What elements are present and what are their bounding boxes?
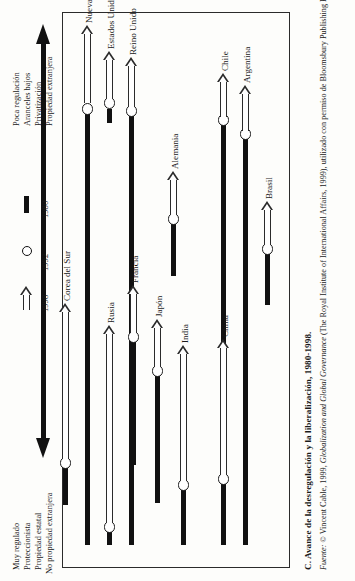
label-argentina: Argentina	[242, 47, 252, 83]
arrow-1998-china	[217, 339, 230, 475]
circle-1992-nueva-zelanda	[82, 103, 94, 115]
legend: 1980 1992 1998	[6, 196, 58, 326]
bar-1980-rusia	[107, 531, 112, 545]
source-book-title: Globalization and Global Governance	[319, 337, 328, 463]
arrow-1998-alemania	[167, 171, 180, 215]
caption-title-text: Avance de la desregulación y la liberali…	[303, 332, 313, 560]
pole-closed-line-2: Proteccionista	[23, 523, 33, 570]
arrow-1998-brasil	[261, 201, 274, 245]
arrow-1998-argentina	[239, 85, 252, 131]
bar-1980-india	[181, 489, 186, 545]
arrow-1998-francia	[127, 285, 140, 333]
axis-arrow-head-down	[36, 438, 50, 458]
label-nueva-zelanda-line1: Nueva Zelanda	[84, 0, 94, 23]
pole-closed-line-4: No propiedad extranjera	[45, 493, 55, 574]
label-brasil: Brasil	[264, 177, 274, 199]
label-japon: Japón	[154, 296, 164, 317]
pole-closed-line-1: Muy regulado	[12, 523, 22, 570]
label-reino-unido: Reino Unido	[128, 8, 138, 55]
arrow-1998-rusia	[103, 325, 116, 523]
legend-marker-bar-1980	[24, 196, 29, 213]
caption-source-block: Fuente: © Vincent Cable, 1999, Globaliza…	[318, 270, 329, 570]
label-chile: Chile	[220, 51, 230, 71]
figure-page: Poca regulación Aranceles bajos Privatiz…	[0, 0, 355, 581]
arrow-1998-nueva-zelanda	[81, 25, 94, 103]
bar-1980-estados-unidos	[107, 109, 112, 123]
arrow-1998-india	[177, 345, 190, 481]
legend-label-1980: 1980	[40, 201, 50, 218]
bar-1980-nueva-zelanda	[85, 109, 90, 545]
pole-closed-line-3: Propiedad estatal	[34, 513, 44, 570]
bar-1980-alemania	[171, 224, 176, 276]
source-text-part-1: © Vincent Cable, 1999,	[319, 465, 328, 542]
plot-area: Nueva Zelanda Estados Unidos Reino Unido	[62, 12, 290, 568]
label-alemania: Alemania	[170, 134, 180, 169]
label-francia: Francia	[130, 256, 140, 283]
bar-1980-brasil	[265, 253, 270, 305]
source-label: Fuente:	[319, 545, 328, 570]
bar-1980-china	[221, 481, 226, 545]
caption-title-line: C. Avance de la desregulación y la liber…	[303, 332, 313, 570]
legend-marker-circle-1992	[22, 246, 32, 256]
bar-1980-corea-del-sur	[63, 465, 68, 505]
bar-1980-japon	[155, 373, 160, 503]
label-india: India	[180, 324, 190, 343]
legend-label-1992: 1992	[40, 254, 50, 271]
pole-open-line-2: Aranceles bajos	[23, 73, 33, 126]
bar-1980-francia	[131, 339, 136, 465]
label-estados-unidos: Estados Unidos	[106, 0, 116, 49]
arrow-1998-corea-del-sur	[59, 303, 72, 459]
caption-block: C. Avance de la desregulación y la liber…	[292, 0, 355, 581]
arrow-1998-estados-unidos	[103, 51, 116, 99]
caption-label: C.	[303, 561, 313, 570]
label-china: China	[220, 315, 230, 337]
arrow-1998-chile	[217, 73, 230, 117]
bar-1980-argentina	[243, 135, 248, 545]
label-rusia: Rusia	[106, 302, 116, 323]
label-corea-del-sur: Corea del Sur	[62, 251, 72, 301]
arrow-1998-reino-unido	[125, 57, 138, 107]
pole-open-line-1: Poca regulación	[12, 72, 22, 126]
arrow-1998-japon	[151, 319, 164, 367]
legend-marker-arrow-1998	[20, 286, 33, 310]
legend-label-1998: 1998	[40, 295, 50, 312]
source-text-part-2: (The Royal Institute of International Af…	[319, 0, 328, 335]
